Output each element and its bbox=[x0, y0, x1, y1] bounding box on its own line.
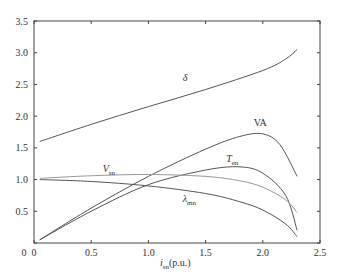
curve-line bbox=[40, 50, 297, 142]
curves bbox=[40, 50, 297, 240]
y-tick-label: 2.0 bbox=[16, 111, 29, 122]
curve-line bbox=[40, 174, 297, 212]
curve-line bbox=[40, 133, 297, 239]
x-tick-label: 1.0 bbox=[142, 247, 155, 258]
delta-curve-label: δ bbox=[183, 72, 188, 83]
y-tick-label: 1.5 bbox=[16, 142, 29, 153]
x-tick-label: 0 bbox=[32, 247, 37, 258]
curve-line bbox=[40, 167, 297, 240]
va-curve-label: VA bbox=[254, 117, 268, 128]
x-axis-ticks: 00.51.01.52.02.5 bbox=[32, 21, 327, 258]
plot-frame bbox=[34, 21, 320, 243]
y-axis-ticks: 00.51.01.52.02.53.03.5 bbox=[16, 16, 321, 259]
plot-axes bbox=[34, 21, 320, 243]
y-tick-label: 1.0 bbox=[16, 174, 29, 185]
lambda-curve-label: λmn bbox=[182, 193, 197, 207]
y-tick-label: 2.5 bbox=[16, 79, 29, 90]
line-chart: 00.51.01.52.02.5 00.51.01.52.02.53.03.5 … bbox=[0, 0, 337, 280]
y-tick-label: 3.0 bbox=[16, 47, 29, 58]
x-axis-label: isn(p.u.) bbox=[160, 257, 191, 271]
x-tick-label: 2.0 bbox=[257, 247, 270, 258]
x-tick-label: 1.5 bbox=[199, 247, 212, 258]
y-tick-label: 0.5 bbox=[16, 206, 29, 217]
x-tick-label: 0.5 bbox=[85, 247, 98, 258]
y-tick-label: 0 bbox=[22, 247, 27, 258]
curve-line bbox=[40, 180, 297, 237]
ten-curve-label: Ten bbox=[226, 153, 239, 167]
y-tick-label: 3.5 bbox=[16, 16, 29, 27]
x-tick-label: 2.5 bbox=[314, 247, 327, 258]
